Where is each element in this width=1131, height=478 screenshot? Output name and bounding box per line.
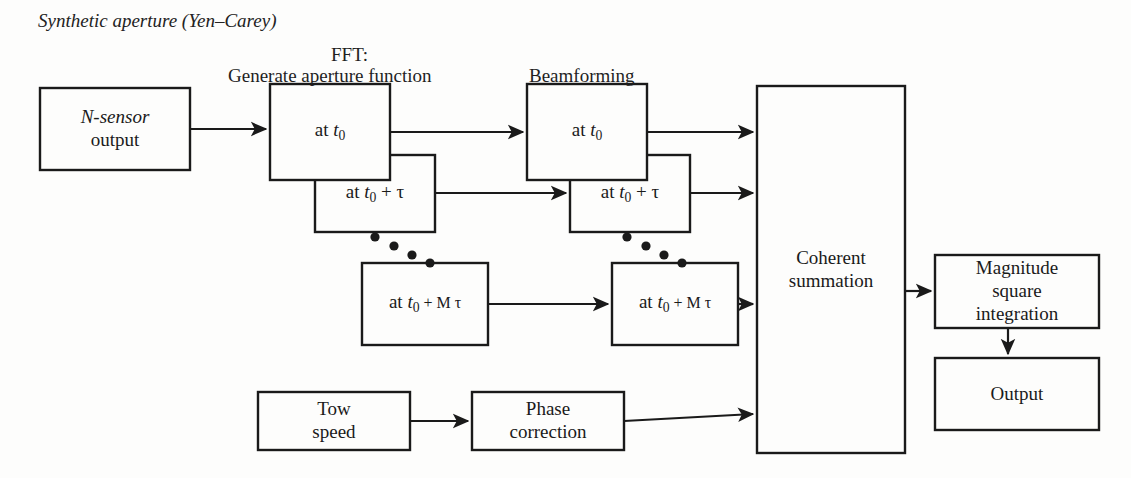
box-output — [935, 358, 1099, 430]
box-magnitude-square-integration — [935, 255, 1099, 328]
figure-canvas: Synthetic aperture (Yen–Carey) FFT: Gene… — [0, 0, 1131, 478]
label-beamforming: Beamforming — [529, 65, 635, 87]
box-fft-t0 — [270, 84, 390, 180]
box-coherent-summation — [757, 86, 905, 453]
box-tow-speed — [258, 392, 410, 450]
box-bf-t0 — [527, 84, 647, 180]
label-generate-aperture-function: Generate aperture function — [228, 65, 432, 87]
box-fft-t0-mtau — [362, 263, 488, 345]
box-bf-t0-mtau — [612, 263, 738, 345]
box-sensor-output — [40, 88, 190, 170]
figure-title: Synthetic aperture (Yen–Carey) — [38, 10, 277, 32]
arrow-phase-to-sum — [624, 414, 753, 421]
label-fft: FFT: — [331, 44, 368, 66]
box-phase-correction — [472, 392, 624, 450]
